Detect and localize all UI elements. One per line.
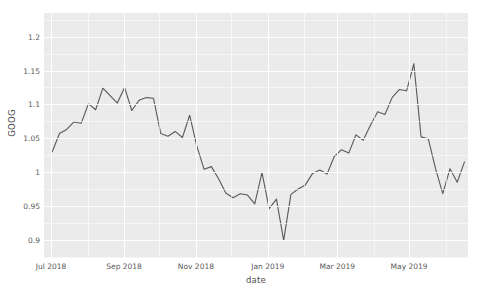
chart-figure: GOOG 0.90.9511.051.11.151.2 Jul 2018Sep … <box>0 0 491 294</box>
gridline-minor-horizontal <box>44 87 468 88</box>
gridline-major-horizontal <box>44 104 468 105</box>
y-axis-tick-label: 1.05 <box>6 134 40 143</box>
gridline-minor-vertical <box>88 13 89 258</box>
gridline-minor-horizontal <box>44 20 468 21</box>
gridline-major-horizontal <box>44 71 468 72</box>
y-axis-tick-label: 1.1 <box>6 100 40 109</box>
x-axis-tick-label: May 2019 <box>391 262 428 271</box>
gridline-major-horizontal <box>44 240 468 241</box>
gridline-major-vertical <box>409 13 410 258</box>
gridline-major-horizontal <box>44 172 468 173</box>
gridline-minor-horizontal <box>44 155 468 156</box>
x-axis-tick-label: Nov 2018 <box>178 262 214 271</box>
gridline-minor-vertical <box>374 13 375 258</box>
x-axis-tick-label: Jan 2019 <box>251 262 284 271</box>
gridline-minor-horizontal <box>44 121 468 122</box>
gridline-minor-vertical <box>304 13 305 258</box>
x-axis-tick-label: Mar 2019 <box>319 262 355 271</box>
line-series-goog <box>44 13 468 258</box>
plot-panel <box>44 13 468 258</box>
gridline-major-vertical <box>337 13 338 258</box>
gridline-major-horizontal <box>44 37 468 38</box>
gridline-major-vertical <box>268 13 269 258</box>
y-axis-tick-labels: 0.90.9511.051.11.151.2 <box>0 0 40 294</box>
gridline-major-vertical <box>196 13 197 258</box>
y-axis-tick-label: 1 <box>6 168 40 177</box>
gridline-minor-horizontal <box>44 223 468 224</box>
gridline-minor-vertical <box>231 13 232 258</box>
x-axis-tick-label: Jul 2018 <box>36 262 67 271</box>
y-axis-tick-label: 0.95 <box>6 201 40 210</box>
gridline-minor-vertical <box>446 13 447 258</box>
y-axis-tick-label: 1.15 <box>6 66 40 75</box>
gridline-major-vertical <box>51 13 52 258</box>
gridline-major-horizontal <box>44 206 468 207</box>
gridline-major-horizontal <box>44 138 468 139</box>
series-polyline <box>52 64 464 241</box>
x-axis-tick-labels: Jul 2018Sep 2018Nov 2018Jan 2019Mar 2019… <box>0 262 491 276</box>
gridline-minor-horizontal <box>44 54 468 55</box>
x-axis-tick-label: Sep 2018 <box>106 262 142 271</box>
y-axis-tick-label: 0.9 <box>6 235 40 244</box>
x-axis-title: date <box>44 275 468 285</box>
gridline-minor-vertical <box>159 13 160 258</box>
gridline-minor-horizontal <box>44 189 468 190</box>
gridline-major-vertical <box>124 13 125 258</box>
y-axis-tick-label: 1.2 <box>6 32 40 41</box>
gridline-minor-horizontal <box>44 257 468 258</box>
